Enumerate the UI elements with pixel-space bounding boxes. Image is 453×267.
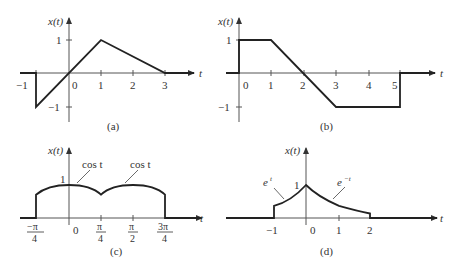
xtick-c-3pi-4: 3π 4 <box>157 221 173 244</box>
xlabel-a: t <box>199 67 203 79</box>
annotation-leader-c-0 <box>77 170 90 183</box>
ytick-b-1: −1 <box>218 101 230 113</box>
svg-text:π: π <box>97 221 102 232</box>
ylabel-c: x(t) <box>47 144 64 157</box>
annotation-c-0: cos t <box>82 158 102 170</box>
ylabel-b: x(t) <box>217 15 234 28</box>
svg-text:4: 4 <box>98 233 103 244</box>
svg-text:2: 2 <box>130 233 135 244</box>
xtick-b-0: 0 <box>243 79 249 91</box>
ytick-d-0: 1 <box>294 179 300 191</box>
caption-a: (a) <box>107 120 120 133</box>
caption-c: (c) <box>110 245 123 258</box>
svg-text:−π: −π <box>27 221 38 232</box>
annotation-d-1: e −t <box>337 175 352 188</box>
signal-c <box>20 185 202 218</box>
svg-text:e: e <box>263 176 268 188</box>
svg-text:−t: −t <box>344 175 352 183</box>
xtick-d-2: 1 <box>336 224 342 236</box>
svg-text:4: 4 <box>162 233 167 244</box>
panel-b: x(t) t 0 1 2 3 4 5 1 −1 (b) <box>217 15 444 133</box>
xtick-b-5: 5 <box>392 79 398 91</box>
xtick-c-pi-4: π 4 <box>96 221 106 244</box>
xtick-a-1: 0 <box>72 79 78 91</box>
annotation-leader-d-1 <box>333 187 345 199</box>
svg-text:t: t <box>270 175 273 183</box>
panel-d: e t e −t x(t) t 1 −1 0 1 2 (d) <box>226 144 444 258</box>
xtick-b-3: 3 <box>333 79 339 91</box>
annotation-c-1: cos t <box>130 158 150 170</box>
svg-text:3π: 3π <box>158 221 168 232</box>
ylabel-d: x(t) <box>284 144 301 157</box>
xtick-a-3: 2 <box>130 79 136 91</box>
annotation-leader-d-0 <box>274 188 284 199</box>
panel-c: cos t cos t x(t) t 1 −π 4 0 π 4 π 2 3π 4… <box>20 144 204 258</box>
xtick-d-1: 0 <box>310 224 316 236</box>
xtick-c-neg-pi-4: −π 4 <box>27 221 44 244</box>
xtick-d-0: −1 <box>266 224 278 236</box>
figure-root: x(t) t −1 0 1 2 3 1 −1 (a) x(t) t 0 1 2 … <box>0 0 453 267</box>
panel-a: x(t) t −1 0 1 2 3 1 −1 (a) <box>16 15 203 133</box>
svg-text:4: 4 <box>32 233 37 244</box>
signal-d <box>226 185 437 218</box>
xtick-a-2: 1 <box>98 79 104 91</box>
xtick-b-2: 2 <box>300 79 306 91</box>
xlabel-c: t <box>200 212 204 224</box>
ytick-a-1: −1 <box>48 101 60 113</box>
ytick-c-0: 1 <box>60 173 66 185</box>
xtick-b-1: 1 <box>268 79 274 91</box>
annotation-leader-c-1 <box>125 170 138 183</box>
caption-d: (d) <box>320 245 333 258</box>
xtick-c-0: 0 <box>73 224 79 236</box>
xtick-d-3: 2 <box>367 224 373 236</box>
ylabel-a: x(t) <box>47 15 64 28</box>
xtick-a-4: 3 <box>162 79 168 91</box>
ytick-b-0: 1 <box>226 34 232 46</box>
xlabel-b: t <box>440 67 444 79</box>
xlabel-d: t <box>440 212 444 224</box>
xtick-a-0: −1 <box>16 79 28 91</box>
annotation-d-0: e t <box>263 175 273 188</box>
svg-text:e: e <box>337 176 342 188</box>
ytick-a-0: 1 <box>56 34 62 46</box>
xtick-c-pi-2: π 2 <box>128 221 138 244</box>
xtick-b-4: 4 <box>366 79 372 91</box>
svg-text:π: π <box>129 221 134 232</box>
caption-b: (b) <box>320 120 333 133</box>
